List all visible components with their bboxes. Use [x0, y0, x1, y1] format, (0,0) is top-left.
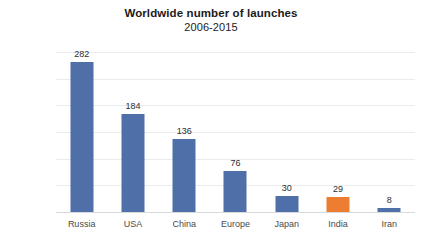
x-axis-category-label: Russia: [53, 219, 111, 229]
chart-subtitle: 2006-2015: [0, 21, 422, 34]
bar-value-label: 282: [74, 49, 89, 59]
bar[interactable]: [121, 114, 144, 212]
bar[interactable]: [70, 62, 93, 212]
x-axis-category-label: Europe: [207, 219, 265, 229]
bar-slot: 184: [107, 52, 158, 212]
x-axis-category-label: Iran: [360, 219, 418, 229]
bar[interactable]: [224, 171, 247, 212]
bar[interactable]: [173, 139, 196, 212]
bar-slot: 136: [159, 52, 210, 212]
bar-value-label: 76: [230, 158, 240, 168]
bar-chart: Worldwide number of launches 2006-2015 3…: [0, 0, 422, 241]
x-axis-category-label: China: [155, 219, 213, 229]
x-axis-category-label: Japan: [258, 219, 316, 229]
bar-slot: 30: [261, 52, 312, 212]
bar-value-label: 30: [282, 183, 292, 193]
bar-value-label: 184: [125, 101, 140, 111]
bar-value-label: 8: [387, 195, 392, 205]
bar-slot: 282: [56, 52, 107, 212]
bar-value-label: 136: [177, 126, 192, 136]
bar[interactable]: [275, 196, 298, 212]
x-axis-labels: RussiaUSAChinaEuropeJapanIndiaIran: [56, 219, 415, 235]
bar[interactable]: [378, 208, 401, 212]
chart-title-block: Worldwide number of launches 2006-2015: [0, 6, 422, 34]
bar-slot: 29: [312, 52, 363, 212]
bar-value-label: 29: [333, 184, 343, 194]
axis-baseline: [56, 212, 415, 213]
chart-title: Worldwide number of launches: [0, 6, 422, 20]
x-axis-category-label: India: [309, 219, 367, 229]
bars-layer: 2821841367630298: [56, 52, 415, 212]
bar-slot: 8: [364, 52, 415, 212]
bar[interactable]: [327, 197, 350, 212]
bar-slot: 76: [210, 52, 261, 212]
plot-area: 300250200150100500 2821841367630298: [56, 52, 415, 213]
x-axis-category-label: USA: [104, 219, 162, 229]
